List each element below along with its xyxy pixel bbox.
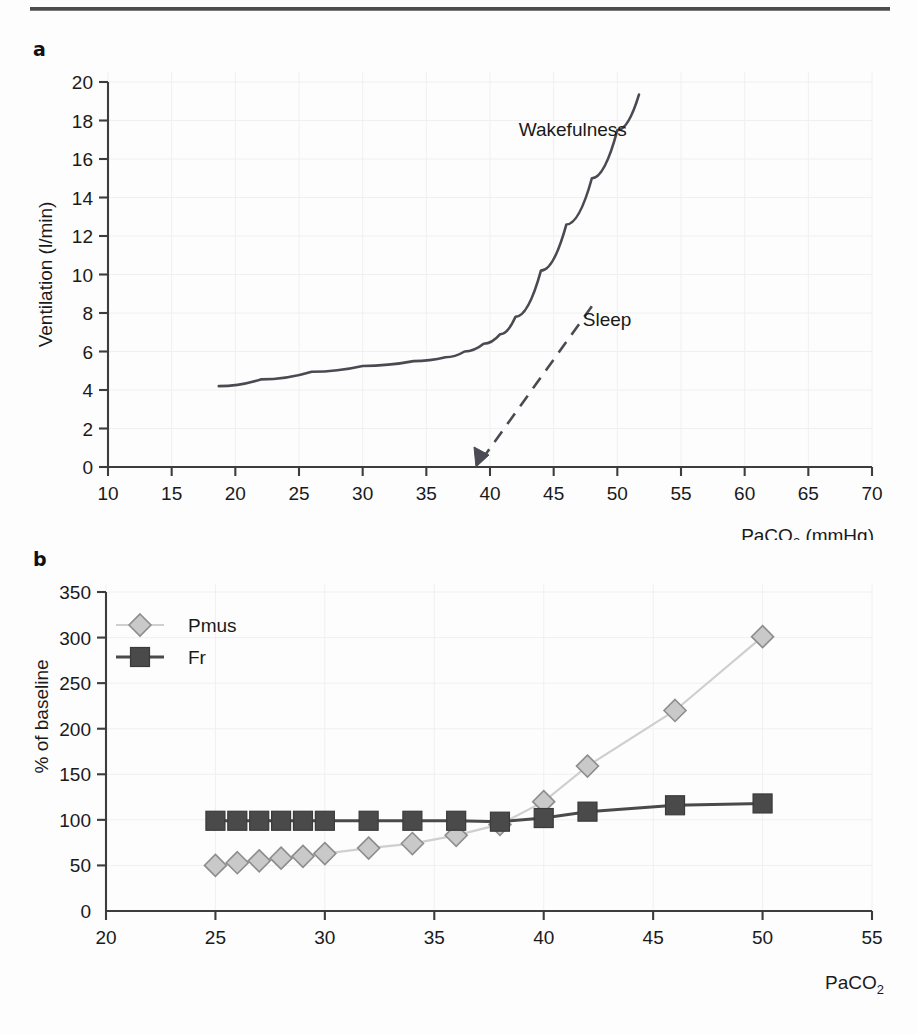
y-axis-tick-label: 150 (59, 764, 91, 785)
legend-pmus-marker (129, 614, 151, 636)
pmus-data-point (576, 755, 598, 777)
y-axis-tick-label: 14 (72, 188, 94, 209)
pmus-data-point (401, 833, 423, 855)
legend-pmus-label: Pmus (188, 615, 237, 636)
fr-data-point (228, 811, 247, 830)
x-axis-tick-label: 20 (225, 483, 246, 504)
y-axis-tick-label: 200 (59, 719, 91, 740)
fr-data-point (315, 811, 334, 830)
y-axis-tick-label: 16 (72, 149, 93, 170)
y-axis-tick-label: 6 (82, 342, 93, 363)
figure-page: a b 024681012141618201015202530354045505… (0, 0, 917, 1034)
panel-b-chart: 0501001502002503003502025303540455055 Pm… (0, 540, 917, 1034)
legend-fr-label: Fr (188, 647, 207, 668)
y-axis-tick-label: 10 (72, 265, 93, 286)
x-axis-tick-label: 55 (670, 483, 691, 504)
x-axis-tick-label: 50 (752, 927, 773, 948)
x-axis-tick-label: 55 (861, 927, 882, 948)
pmus-data-point (358, 837, 380, 859)
x-axis-tick-label: 60 (734, 483, 755, 504)
fr-data-point (490, 812, 509, 831)
panel-a-chart: 0246810121416182010152025303540455055606… (0, 20, 917, 540)
panel-a-gridlines (108, 72, 872, 467)
x-axis-tick-label: 45 (543, 483, 564, 504)
x-axis-tick-label: 40 (533, 927, 554, 948)
fr-data-point (447, 811, 466, 830)
panel-b-legend: PmusFr (116, 614, 237, 668)
x-label-subscript: 2 (877, 982, 884, 997)
panel-b-x-axis-title: PaCO2 (825, 972, 884, 997)
x-axis-tick-label: 10 (97, 483, 118, 504)
y-axis-tick-label: 20 (72, 72, 93, 93)
fr-data-point (359, 811, 378, 830)
pmus-data-point (204, 854, 226, 876)
fr-data-point (206, 811, 225, 830)
y-axis-tick-label: 12 (72, 226, 93, 247)
y-axis-tick-label: 0 (80, 901, 91, 922)
x-label-unit: (mmHg) (800, 525, 874, 540)
x-axis-tick-label: 25 (288, 483, 309, 504)
pmus-data-point (292, 845, 314, 867)
fr-data-point (666, 796, 685, 815)
legend-fr-marker (131, 648, 150, 667)
fr-data-point (578, 802, 597, 821)
pmus-data-point (226, 852, 248, 874)
panel-a-series-annotations: WakefulnessSleep (519, 119, 632, 331)
panel-b-y-axis-title: % of baseline (31, 659, 52, 773)
y-axis-tick-label: 100 (59, 810, 91, 831)
x-axis-tick-label: 65 (798, 483, 819, 504)
x-axis-tick-label: 20 (95, 927, 116, 948)
y-axis-tick-label: 0 (82, 457, 93, 478)
y-axis-tick-label: 250 (59, 673, 91, 694)
pmus-data-point (248, 850, 270, 872)
sleep-label: Sleep (583, 309, 632, 330)
fr-data-point (753, 794, 772, 813)
x-axis-tick-label: 70 (861, 483, 882, 504)
x-axis-tick-label: 35 (416, 483, 437, 504)
x-axis-tick-label: 30 (352, 483, 373, 504)
panel-b-series (204, 626, 773, 877)
sleep-line (483, 306, 592, 458)
y-axis-tick-label: 350 (59, 582, 91, 603)
panel-a-x-axis-title: PaCO2 (mmHg) (741, 525, 874, 540)
panel-a-axes (99, 82, 872, 476)
y-axis-tick-label: 2 (82, 419, 93, 440)
x-axis-tick-label: 25 (205, 927, 226, 948)
fr-data-point (534, 809, 553, 828)
x-label-main: PaCO (741, 525, 793, 540)
pmus-line (215, 637, 762, 866)
panel-a-series (219, 95, 639, 467)
y-axis-tick-label: 50 (70, 855, 91, 876)
panel-a-y-axis-title: Ventilation (l/min) (35, 202, 56, 348)
pmus-data-point (314, 843, 336, 865)
x-axis-tick-label: 30 (314, 927, 335, 948)
x-axis-tick-label: 15 (161, 483, 182, 504)
y-axis-tick-label: 18 (72, 111, 93, 132)
wakefulness-label: Wakefulness (519, 119, 627, 140)
fr-data-point (250, 811, 269, 830)
top-rule-divider (30, 7, 890, 11)
x-axis-tick-label: 50 (607, 483, 628, 504)
x-axis-tick-label: 45 (643, 927, 664, 948)
y-axis-tick-label: 8 (82, 303, 93, 324)
fr-data-point (293, 811, 312, 830)
x-axis-tick-label: 35 (424, 927, 445, 948)
x-axis-tick-label: 40 (479, 483, 500, 504)
panel-a-tick-labels: 0246810121416182010152025303540455055606… (72, 72, 883, 504)
sleep-arrowhead (474, 447, 489, 467)
y-axis-tick-label: 300 (59, 628, 91, 649)
fr-data-point (272, 811, 291, 830)
y-axis-tick-label: 4 (82, 380, 93, 401)
x-label-main: PaCO (825, 972, 877, 993)
fr-data-point (403, 811, 422, 830)
